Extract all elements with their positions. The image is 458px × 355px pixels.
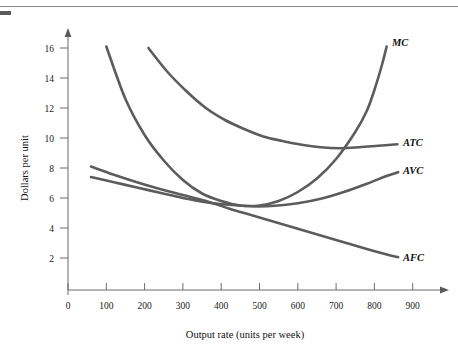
curve-avc (91, 172, 398, 206)
x-tick-label-700: 700 (329, 301, 344, 311)
cost-curves-chart: 16 14 12 10 8 6 4 2 0 100 200 300 (0, 0, 458, 355)
y-axis-tick-labels: 16 14 12 10 8 6 4 2 (45, 44, 55, 264)
y-tick-label-2: 2 (49, 254, 54, 264)
y-tick-label-10: 10 (45, 134, 55, 144)
y-axis-arrow-icon (65, 28, 72, 37)
curve-atc (148, 48, 397, 148)
curve-labels: MC ATC AVC AFC (391, 37, 425, 263)
y-tick-label-4: 4 (49, 224, 54, 234)
figure-root: 16 14 12 10 8 6 4 2 0 100 200 300 (0, 0, 458, 355)
x-tick-label-600: 600 (291, 301, 306, 311)
curve-afc (91, 167, 398, 258)
x-tick-label-100: 100 (99, 301, 114, 311)
y-axis-ticks (60, 48, 68, 258)
curve-label-atc: ATC (402, 137, 424, 148)
x-tick-label-900: 900 (406, 301, 421, 311)
curve-label-avc: AVC (402, 165, 424, 176)
y-axis-title: Dollars per unit (19, 135, 30, 201)
x-axis-title: Output rate (units per week) (186, 329, 305, 341)
x-tick-label-0: 0 (66, 301, 71, 311)
x-axis-ticks (68, 283, 413, 290)
y-tick-label-8: 8 (49, 164, 54, 174)
x-tick-label-500: 500 (252, 301, 267, 311)
x-tick-label-800: 800 (367, 301, 382, 311)
x-tick-label-200: 200 (137, 301, 152, 311)
x-tick-label-400: 400 (214, 301, 229, 311)
curve-mc (106, 47, 386, 207)
curve-label-afc: AFC (402, 252, 425, 263)
y-tick-label-12: 12 (45, 104, 55, 114)
curve-label-mc: MC (391, 37, 409, 48)
x-tick-label-300: 300 (176, 301, 191, 311)
y-tick-label-16: 16 (45, 44, 55, 54)
curve-group (91, 47, 398, 258)
y-tick-label-14: 14 (45, 74, 55, 84)
x-axis-tick-labels: 0 100 200 300 400 500 600 700 800 900 (66, 301, 420, 311)
y-tick-label-6: 6 (49, 194, 54, 204)
x-axis-arrow-icon (440, 287, 449, 294)
